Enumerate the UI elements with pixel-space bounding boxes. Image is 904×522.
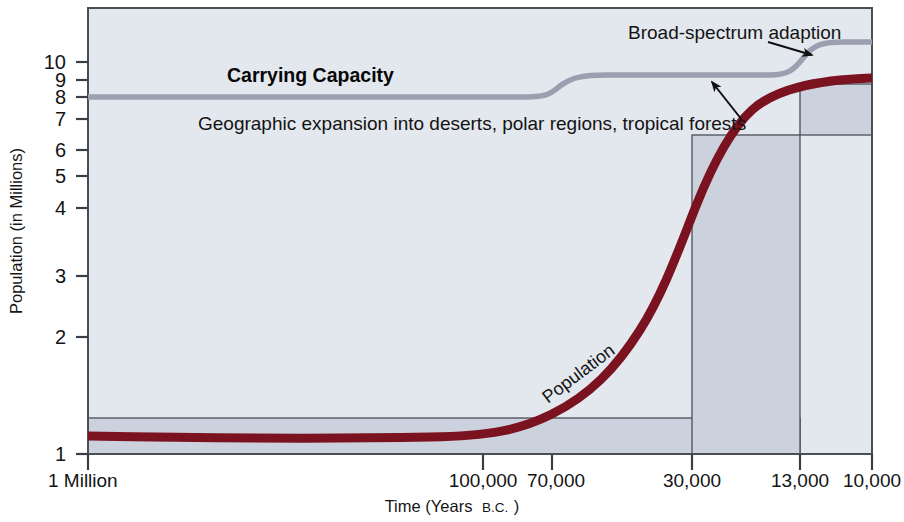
y-tick-label-1: 1 [55,443,66,465]
y-axis-ticks [76,62,88,454]
y-tick-label-3: 3 [55,265,66,287]
x-axis-title-main: Time (Years [385,497,473,515]
y-tick-labels: 10 9 8 7 6 5 4 3 2 1 [44,51,66,465]
chart-canvas: 10 9 8 7 6 5 4 3 2 1 Population (in Mill… [0,0,904,522]
y-tick-label-5: 5 [55,165,66,187]
x-tick-label-1-million: 1 Million [48,470,118,491]
x-tick-label-13000: 13,000 [771,470,829,491]
y-tick-label-7: 7 [55,108,66,130]
broad-spectrum-box [800,84,872,135]
carrying-capacity-label: Carrying Capacity [227,64,394,86]
broad-spectrum-label: Broad-spectrum adaption [628,22,841,43]
x-tick-label-70000: 70,000 [527,470,585,491]
y-tick-label-4: 4 [55,197,66,219]
x-tick-labels: 1 Million 100,000 70,000 30,000 13,000 1… [48,470,901,491]
y-tick-label-6: 6 [55,139,66,161]
x-axis-title: Time (Years B.C. ) [385,497,520,515]
x-axis-title-tail: ) [514,497,520,515]
y-axis-title: Population (in Millions) [7,148,25,314]
y-tick-label-8: 8 [55,86,66,108]
x-tick-label-30000: 30,000 [663,470,721,491]
x-tick-label-10000: 10,000 [843,470,901,491]
population-carrying-capacity-figure: 10 9 8 7 6 5 4 3 2 1 Population (in Mill… [0,0,904,522]
y-tick-label-2: 2 [55,326,66,348]
x-tick-label-100000: 100,000 [449,470,518,491]
x-axis-ticks [88,454,872,470]
x-axis-title-smallcaps: B.C. [482,500,508,515]
geographic-expansion-label: Geographic expansion into deserts, polar… [198,113,746,134]
